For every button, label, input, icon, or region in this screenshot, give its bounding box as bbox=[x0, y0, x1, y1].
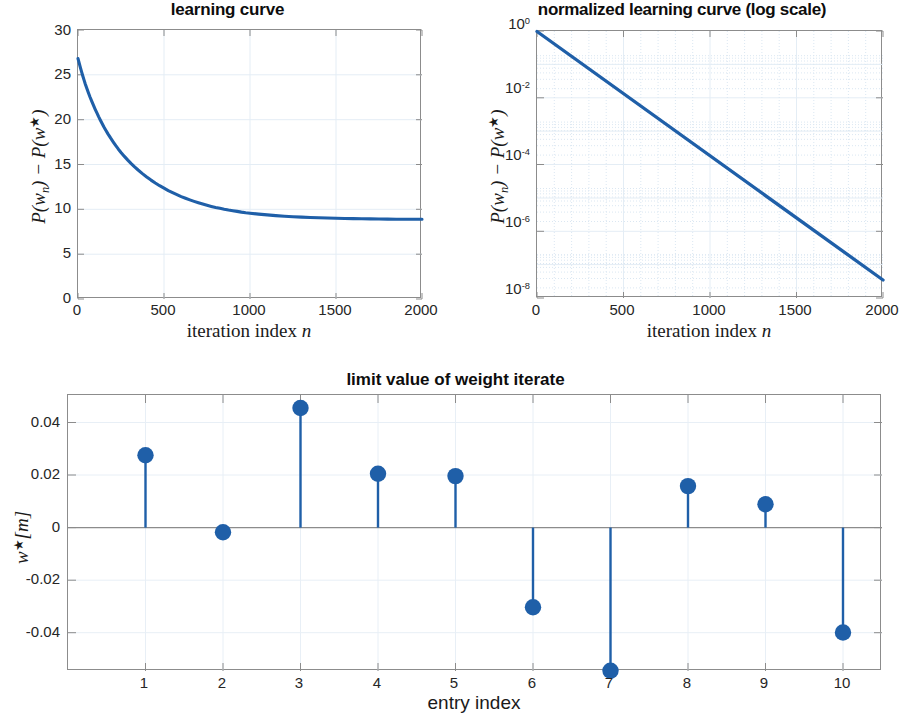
xtick-label-3: 3 bbox=[269, 674, 329, 691]
panel-limit-value-of-weight-iterate: limit value of weight iterate bbox=[0, 368, 911, 719]
ytick-label-0.04: 0.04 bbox=[0, 413, 60, 430]
xtick-label-1500: 1500 bbox=[305, 301, 365, 318]
grid-vertical bbox=[146, 395, 844, 671]
stem-marker bbox=[757, 496, 773, 512]
stem-marker bbox=[525, 599, 541, 615]
xtick-label-9: 9 bbox=[734, 674, 794, 691]
xtick-label-1000: 1000 bbox=[219, 301, 279, 318]
yaxis-label-learning-curve: P(wn) − P(w★) bbox=[27, 47, 52, 287]
xtick-label-10: 10 bbox=[812, 674, 872, 691]
xaxis-label-normalized-learning-curve: iteration index n bbox=[536, 320, 882, 342]
ytick-label--0.04: -0.04 bbox=[0, 623, 60, 640]
plot-area-limit-value-of-weight-iterate bbox=[68, 395, 882, 671]
xtick-label-2: 2 bbox=[192, 674, 252, 691]
yaxis-label-normalized-learning-curve: P(wn) − P(w★) bbox=[486, 47, 511, 287]
panel-title-limit-value-of-weight-iterate: limit value of weight iterate bbox=[0, 370, 911, 390]
xaxis-label-learning-curve: iteration index n bbox=[77, 320, 421, 342]
stem-marker bbox=[447, 468, 463, 484]
xtick-label-8: 8 bbox=[657, 674, 717, 691]
yaxis-label-limit-value: w★[m] bbox=[11, 477, 34, 597]
xtick-label-1500: 1500 bbox=[765, 301, 825, 318]
stem-marker bbox=[137, 447, 153, 463]
axes-limit-value-of-weight-iterate bbox=[67, 394, 881, 670]
xtick-label-500: 500 bbox=[592, 301, 652, 318]
xtick-label-6: 6 bbox=[502, 674, 562, 691]
stem-markers bbox=[137, 400, 851, 679]
stem-marker bbox=[835, 624, 851, 640]
xtick-label-2000: 2000 bbox=[391, 301, 451, 318]
plot-area-normalized-learning-curve bbox=[537, 31, 883, 298]
xtick-label-1: 1 bbox=[114, 674, 174, 691]
ytick-label-1e0: 100 bbox=[462, 15, 530, 32]
plot-area-learning-curve bbox=[78, 30, 422, 299]
panel-learning-curve: learning curve bbox=[0, 0, 455, 345]
xtick-label-500: 500 bbox=[133, 301, 193, 318]
panel-normalized-learning-curve: normalized learning curve (log scale) bbox=[455, 0, 911, 345]
stem-marker bbox=[680, 478, 696, 494]
matlab-figure: learning curve bbox=[0, 0, 911, 719]
panel-title-learning-curve: learning curve bbox=[0, 0, 455, 20]
x-ticks bbox=[146, 395, 844, 671]
xtick-label-5: 5 bbox=[424, 674, 484, 691]
stem-marker bbox=[370, 466, 386, 482]
xaxis-label-limit-value: entry index bbox=[67, 692, 881, 714]
stem-marker bbox=[292, 400, 308, 416]
xtick-label-0: 0 bbox=[47, 301, 107, 318]
axes-normalized-learning-curve bbox=[536, 30, 882, 297]
axes-learning-curve bbox=[77, 29, 421, 298]
xtick-label-0: 0 bbox=[506, 301, 566, 318]
xtick-label-1000: 1000 bbox=[679, 301, 739, 318]
xtick-label-2000: 2000 bbox=[852, 301, 911, 318]
ytick-label-30: 30 bbox=[37, 21, 71, 38]
stem-lines bbox=[146, 408, 844, 671]
stem-marker bbox=[215, 524, 231, 540]
xtick-label-7: 7 bbox=[579, 674, 639, 691]
xtick-label-4: 4 bbox=[347, 674, 407, 691]
